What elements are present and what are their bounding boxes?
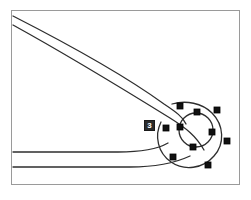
drawing-canvas[interactable]: 3 (0, 0, 251, 200)
node-index-badge[interactable]: 3 (144, 120, 155, 131)
handle-outer-bottom-left[interactable] (170, 154, 176, 160)
handle-inner-left[interactable] (177, 124, 183, 130)
handle-inner-right[interactable] (209, 129, 215, 135)
handle-outer-right[interactable] (224, 138, 230, 144)
node-index-badge-text: 3 (147, 122, 151, 130)
vector-drawing[interactable] (0, 0, 251, 200)
artboard-frame (12, 11, 240, 185)
handle-outer-bottom-right[interactable] (205, 162, 211, 168)
handle-outer-top-right[interactable] (214, 107, 220, 113)
handle-inner-top[interactable] (194, 109, 200, 115)
handle-outer-top-left[interactable] (177, 103, 183, 109)
handle-inner-bottom[interactable] (190, 144, 196, 150)
handle-outer-left[interactable] (163, 125, 169, 131)
